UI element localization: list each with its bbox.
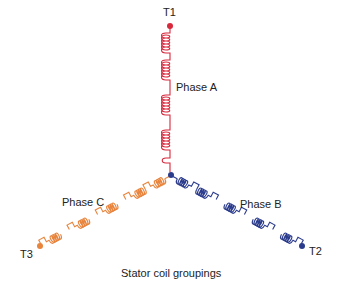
phase-c-label: Phase C [62,196,104,208]
neutral-junction-dot [168,172,174,178]
terminal-t3-label: T3 [20,248,33,260]
terminal-t1-dot [167,23,173,29]
phase-c-coil [39,172,172,249]
phase-b-label: Phase B [240,198,282,210]
phase-b-coil [170,172,303,249]
terminal-t2-label: T2 [309,245,322,257]
phase-a-label: Phase A [176,81,217,93]
wye-diagram [0,0,340,294]
terminal-t3-dot [37,243,43,249]
terminal-t2-dot [299,243,305,249]
phase-a-coil [162,26,171,172]
terminal-t1-label: T1 [163,6,176,18]
diagram-caption: Stator coil groupings [121,267,221,279]
